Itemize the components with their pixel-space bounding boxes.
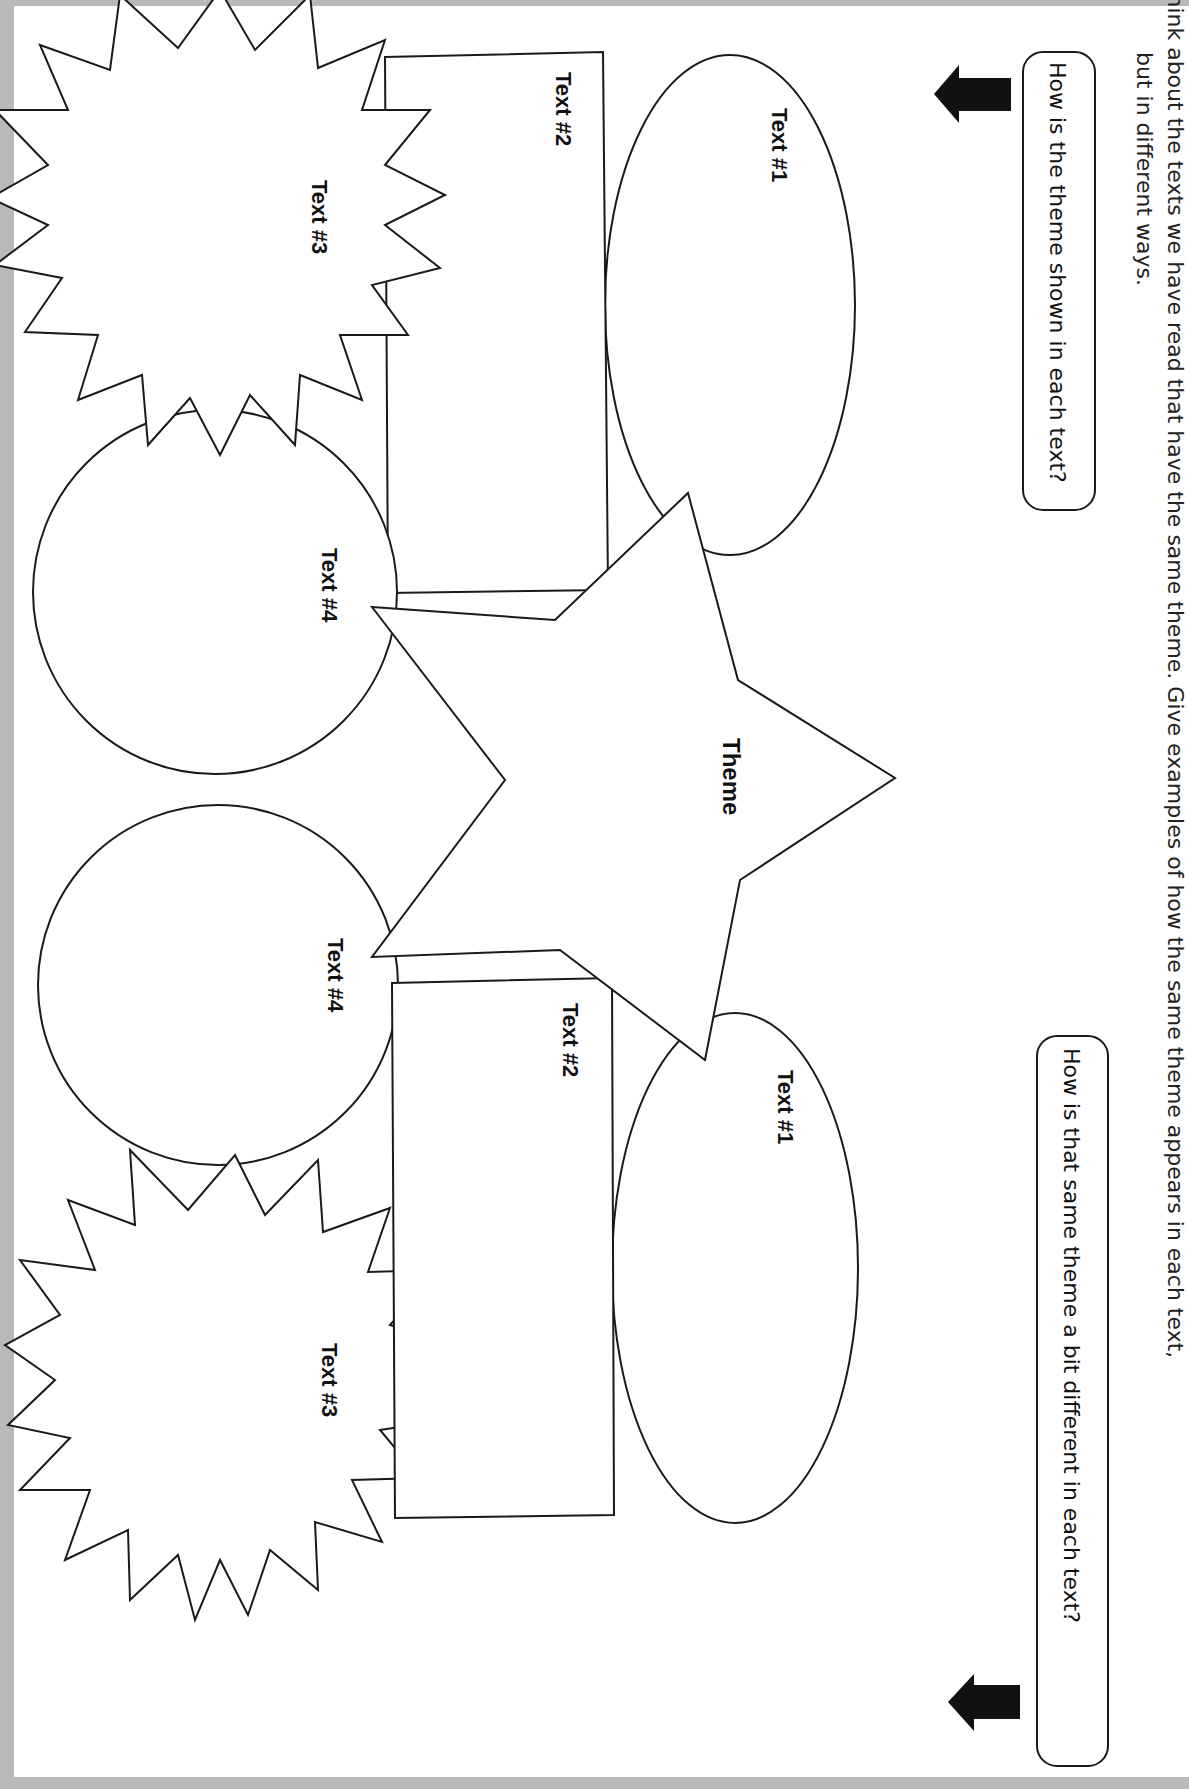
top-prompt-text: How is the theme shown in each text? bbox=[1045, 62, 1070, 483]
lower-text1-label: Text #1 bbox=[773, 1070, 798, 1144]
lower-text3-starburst[interactable] bbox=[5, 1150, 455, 1620]
instructions-line-1: Think about the texts we have read that … bbox=[1163, 0, 1188, 1358]
bottom-prompt: How is that same theme a bit different i… bbox=[948, 1036, 1108, 1766]
upper-text3-starburst[interactable] bbox=[0, 0, 445, 455]
upper-text2-label: Text #2 bbox=[551, 72, 576, 146]
theme-label: Theme bbox=[718, 738, 745, 815]
lower-text3-label: Text #3 bbox=[317, 1343, 342, 1417]
upper-text4-label: Text #4 bbox=[317, 548, 342, 623]
instructions: Think about the texts we have read that … bbox=[1132, 0, 1188, 1358]
lower-text4-label: Text #4 bbox=[323, 938, 348, 1013]
upper-text1-label: Text #1 bbox=[767, 108, 792, 182]
bottom-prompt-text: How is that same theme a bit different i… bbox=[1059, 1048, 1084, 1623]
upper-text1-ellipse[interactable] bbox=[605, 55, 855, 555]
instructions-line-2: but in different ways. bbox=[1132, 52, 1157, 286]
top-prompt: How is the theme shown in each text? bbox=[934, 52, 1095, 510]
lower-text1-ellipse[interactable] bbox=[612, 1013, 858, 1523]
graphic-organizer: Think about the texts we have read that … bbox=[0, 0, 1189, 1789]
arrow-left-icon bbox=[948, 1674, 1020, 1731]
upper-text3-label: Text #3 bbox=[307, 180, 332, 254]
arrow-left-icon bbox=[934, 65, 1011, 123]
lower-text2-label: Text #2 bbox=[558, 1003, 583, 1077]
